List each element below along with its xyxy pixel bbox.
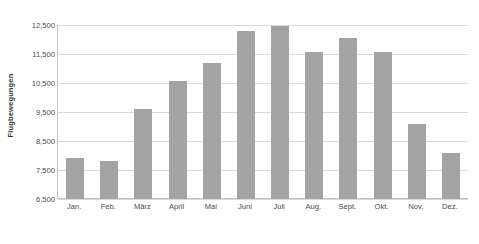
bar	[408, 124, 426, 199]
bar	[305, 52, 323, 199]
bar	[66, 158, 84, 199]
y-axis-tick-label: 10,500	[18, 79, 55, 88]
y-axis-tick-label: 6,500	[18, 195, 55, 204]
bar-chart-figure: Flugbewegungen 6,5007,5008,5009,50010,50…	[0, 0, 479, 244]
y-axis-title-label: Flugbewegungen	[7, 73, 16, 137]
y-axis-tick-label: 11,500	[18, 50, 55, 59]
x-axis-tick-labels: Jan.Feb.MärzAprilMaiJuniJuliAug.Sept.Okt…	[57, 202, 467, 218]
gridline	[58, 199, 468, 200]
y-axis-tick-label: 9,500	[18, 108, 55, 117]
plot-area	[57, 25, 468, 199]
bar	[100, 161, 118, 199]
bar	[271, 26, 289, 199]
bar	[237, 31, 255, 199]
x-axis-tick-label: Dez.	[427, 202, 473, 211]
bar	[374, 52, 392, 199]
bar	[169, 81, 187, 199]
y-axis-tick-label: 7,500	[18, 166, 55, 175]
y-axis-tick-label: 8,500	[18, 137, 55, 146]
bar	[203, 63, 221, 199]
bar	[442, 153, 460, 199]
bar	[339, 38, 357, 199]
caption-strip	[0, 236, 479, 244]
bar	[134, 109, 152, 199]
y-axis-tick-labels: 6,5007,5008,5009,50010,50011,50012,500	[18, 0, 55, 210]
y-axis-tick-label: 12,500	[18, 21, 55, 30]
bars-layer	[58, 25, 468, 199]
